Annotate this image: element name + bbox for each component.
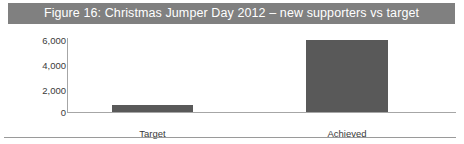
- bar-achieved: [306, 40, 388, 112]
- y-tick-label-4000: 4,000: [6, 60, 66, 71]
- figure-title: Figure 16: Christmas Jumper Day 2012 – n…: [8, 3, 455, 24]
- y-axis-line: [67, 38, 68, 112]
- y-tick-label-2000: 2,000: [6, 85, 66, 96]
- figure-container: Figure 16: Christmas Jumper Day 2012 – n…: [0, 0, 464, 144]
- bar-target: [112, 105, 193, 112]
- y-tick-label-6000: 6,000: [6, 35, 66, 46]
- y-tick-label-0: 0: [6, 107, 66, 118]
- bottom-divider: [4, 137, 456, 138]
- x-axis-line: [67, 112, 456, 113]
- chart-plot-area: 6,000 4,000 2,000 0 Target Achieved: [0, 24, 464, 124]
